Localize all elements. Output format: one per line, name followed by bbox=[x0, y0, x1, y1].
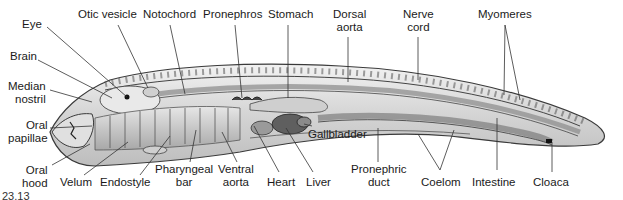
label-pronephric-duct: Pronephric duct bbox=[351, 163, 407, 189]
label-heart: Heart bbox=[267, 176, 295, 189]
label-myomeres: Myomeres bbox=[478, 8, 532, 21]
label-ventral-aorta: Ventral aorta bbox=[218, 163, 254, 189]
label-pharyngeal-bar: Pharyngeal bar bbox=[155, 163, 213, 189]
diagram-stage: Eye Brain Median nostril Oral papillae O… bbox=[0, 0, 623, 200]
label-nerve-cord: Nerve cord bbox=[403, 8, 434, 34]
label-gallbladder: Gallbladder bbox=[308, 128, 367, 141]
label-velum: Velum bbox=[60, 176, 92, 189]
label-coelom: Coelom bbox=[421, 176, 461, 189]
label-cloaca: Cloaca bbox=[533, 176, 569, 189]
larva-illustration bbox=[0, 0, 623, 200]
label-eye: Eye bbox=[22, 18, 42, 31]
heart bbox=[251, 121, 273, 135]
label-endostyle: Endostyle bbox=[100, 176, 151, 189]
label-liver: Liver bbox=[306, 176, 331, 189]
endostyle bbox=[143, 146, 167, 154]
label-dorsal-aorta: Dorsal aorta bbox=[333, 8, 366, 34]
pronephros bbox=[232, 97, 262, 100]
otic-vesicle bbox=[143, 87, 159, 97]
label-intestine: Intestine bbox=[472, 176, 515, 189]
label-otic-vesicle: Otic vesicle bbox=[78, 8, 137, 21]
label-notochord: Notochord bbox=[143, 8, 196, 21]
figure-number: 23.13 bbox=[2, 190, 30, 200]
label-oral-hood: Oral hood bbox=[22, 164, 48, 190]
label-oral-papillae: Oral papillae bbox=[8, 119, 48, 145]
label-pronephros: Pronephros bbox=[203, 8, 262, 21]
label-brain: Brain bbox=[10, 50, 37, 63]
label-median-nostril: Median nostril bbox=[8, 80, 46, 106]
cloaca bbox=[546, 139, 552, 143]
label-stomach: Stomach bbox=[268, 8, 313, 21]
